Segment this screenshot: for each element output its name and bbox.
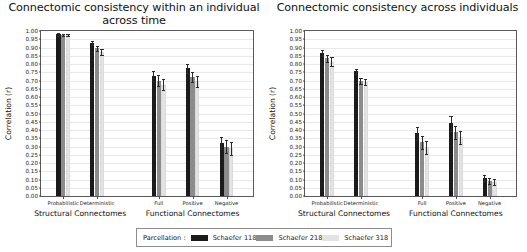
error-bar [163,79,164,91]
gridline [41,48,253,49]
y-tick-mark [39,196,42,197]
y-tick-mark [303,97,306,98]
error-bar-cap [152,71,155,72]
x-tick-mark [490,196,491,199]
gridline [305,171,516,172]
gridline [305,97,516,98]
error-bar-cap [359,78,362,79]
error-bar-cap [454,139,457,140]
y-tick-mark [39,121,42,122]
bar-positive-schaefer-318 [195,81,199,196]
error-bar-cap [62,34,65,35]
error-bar-cap [191,82,194,83]
y-tick-mark [303,31,306,32]
gridline [305,89,516,90]
bar-positive-schaefer-218 [190,77,194,196]
error-bar-cap [493,179,496,180]
y-tick-mark [303,163,306,164]
y-tick-label: 0.10 [280,177,302,183]
error-bar-cap [483,175,486,176]
x-tick-mark [97,196,98,199]
bar-deterministic-schaefer-318 [364,82,368,196]
bar-positive-schaefer-118 [449,123,453,196]
legend-swatch-0 [191,235,208,241]
y-tick-mark [303,171,306,172]
error-bar-cap [157,86,160,87]
error-bar-cap [326,62,329,63]
error-bar-cap [355,69,358,70]
gridline [305,122,516,123]
y-tick-mark [303,105,306,106]
y-tick-label: 0.90 [16,45,38,51]
legend-entry-0[interactable]: Schaefer 118 [191,234,257,242]
y-tick-mark [39,64,42,65]
error-bar-cap [220,149,223,150]
y-tick-label: 0.50 [16,111,38,117]
y-tick-mark [303,187,306,188]
y-tick-label: 0.65 [280,86,302,92]
y-tick-label: 0.95 [280,36,302,42]
bar-full-schaefer-218 [420,142,424,196]
gridline [305,48,516,49]
gridline [41,114,253,115]
legend-label-0: Schaefer 118 [213,234,257,242]
legend-entry-2[interactable]: Schaefer 318 [322,234,388,242]
legend-swatch-1 [256,235,273,241]
x-tick-label-positive: Positive [183,200,203,206]
error-bar-cap [230,142,233,143]
y-tick-label: 0.35 [16,135,38,141]
error-bar-cap [96,46,99,47]
error-bar [460,131,461,144]
y-tick-label: 0.95 [16,36,38,42]
error-bar [221,137,222,149]
gridline [41,72,253,73]
gridline [305,72,516,73]
error-bar-cap [225,153,228,154]
y-tick-mark [303,39,306,40]
axes-left: 0.000.050.100.150.200.250.300.350.400.45… [40,30,254,197]
y-tick-mark [39,163,42,164]
error-bar-cap [66,34,69,35]
y-tick-mark [39,88,42,89]
bar-probabilistic-schaefer-318 [330,62,334,196]
gridline [305,130,516,131]
chart-panel-left: Connectomic consistency within an indivi… [0,0,264,225]
bar-probabilistic-schaefer-218 [61,35,65,196]
y-tick-mark [303,64,306,65]
y-tick-label: 0.45 [16,119,38,125]
error-bar-cap [330,66,333,67]
error-bar-cap [191,72,194,73]
bar-probabilistic-schaefer-118 [56,34,60,196]
bar-deterministic-schaefer-218 [359,81,363,196]
error-bar-cap [66,36,69,37]
error-bar [226,140,227,153]
gridline [305,81,516,82]
bar-probabilistic-schaefer-118 [320,53,324,196]
y-tick-label: 0.60 [16,94,38,100]
y-tick-mark [303,55,306,56]
y-tick-label: 0.30 [16,144,38,150]
error-bar [231,142,232,155]
axes-right: 0.000.050.100.150.200.250.300.350.400.45… [304,30,517,197]
legend-entry-1[interactable]: Schaefer 218 [256,234,322,242]
y-axis-label-right: Correlation (r) [266,30,280,197]
error-bar [192,72,193,83]
error-bar-cap [359,84,362,85]
error-bar-cap [321,50,324,51]
group-caption-structural: Structural Connectomes [298,209,390,218]
error-bar [451,116,452,131]
error-bar-cap [425,141,428,142]
y-tick-mark [303,121,306,122]
bar-positive-schaefer-318 [459,137,463,196]
bar-full-schaefer-318 [425,147,429,196]
y-tick-mark [39,47,42,48]
y-tick-label: 0.80 [280,61,302,67]
group-caption-functional: Functional Connectomes [146,209,240,218]
y-tick-label: 0.60 [280,94,302,100]
error-bar-cap [57,36,60,37]
gridline [305,114,516,115]
legend-swatch-2 [322,235,339,241]
gridline [41,56,253,57]
error-bar [187,64,188,73]
x-tick-label-deterministic: Deterministic [80,200,115,206]
